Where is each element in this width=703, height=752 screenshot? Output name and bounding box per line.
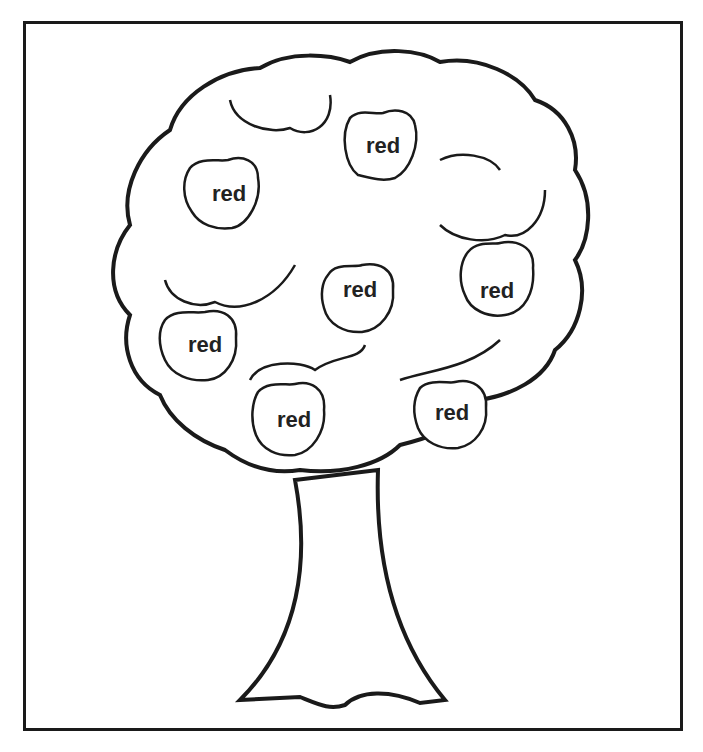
apple-label: red [435, 400, 469, 425]
apple: red [160, 311, 236, 380]
apple: red [414, 381, 486, 448]
apple-label: red [188, 332, 222, 357]
apple: red [322, 264, 393, 332]
apple-label: red [343, 277, 377, 302]
apple: red [252, 383, 324, 455]
apple-label: red [366, 133, 400, 158]
apple-label: red [277, 407, 311, 432]
apple: red [461, 242, 534, 315]
apple: red [184, 158, 258, 228]
apple: red [345, 111, 417, 180]
tree-trunk [240, 470, 445, 707]
apple-tree-illustration: red red red red red red red [0, 0, 703, 752]
apple-label: red [480, 278, 514, 303]
apple-label: red [212, 181, 246, 206]
